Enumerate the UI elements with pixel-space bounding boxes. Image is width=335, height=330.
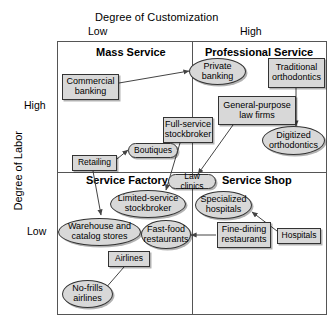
node-warehouse-and-catalog-stores[interactable]: Warehouse and catalog stores (58, 218, 141, 246)
node-specialized-hospitals[interactable]: Specialized hospitals (195, 191, 252, 219)
x-axis-title: Degree of Customization (95, 12, 218, 24)
node-law-clinics[interactable]: Law clinics (168, 174, 216, 189)
service-process-matrix-diagram: Degree of Customization Low High Degree … (0, 0, 335, 330)
node-airlines[interactable]: Airlines (108, 251, 150, 267)
y-axis-tick-high: High (24, 100, 46, 111)
quadrant-title-mass-service: Mass Service (96, 47, 166, 59)
node-hospitals[interactable]: Hospitals (277, 228, 321, 244)
node-private-banking[interactable]: Private banking (189, 58, 246, 85)
node-boutiques[interactable]: Boutiques (128, 143, 178, 158)
y-axis-tick-low: Low (27, 226, 46, 237)
node-general-purpose-law-firms[interactable]: General-purpose law firms (218, 96, 296, 125)
node-commercial-banking[interactable]: Commercial banking (62, 74, 119, 100)
node-digitized-orthodontics[interactable]: Digitized orthodontics (262, 126, 325, 155)
quadrant-title-professional-service: Professional Service (205, 47, 313, 59)
x-axis-tick-high: High (240, 26, 262, 37)
node-no-frills-airlines[interactable]: No-frills airlines (62, 280, 113, 308)
node-fast-food-restaurants[interactable]: Fast-food restaurants (141, 220, 191, 249)
quadrant-title-service-factory: Service Factory (86, 175, 168, 187)
node-full-service-stockbroker[interactable]: Full-service stockbroker (163, 117, 213, 143)
quadrant-title-service-shop: Service Shop (222, 175, 292, 187)
node-retailing[interactable]: Retailing (72, 155, 117, 171)
node-fine-dining-restaurants[interactable]: Fine-dining restaurants (217, 222, 271, 248)
y-axis-title: Degree of Labor (13, 116, 25, 226)
node-traditional-orthodontics[interactable]: Traditional orthodontics (268, 58, 325, 88)
x-axis-tick-low: Low (88, 26, 107, 37)
node-limited-service-stockbroker[interactable]: Limited-service stockbroker (110, 190, 186, 218)
